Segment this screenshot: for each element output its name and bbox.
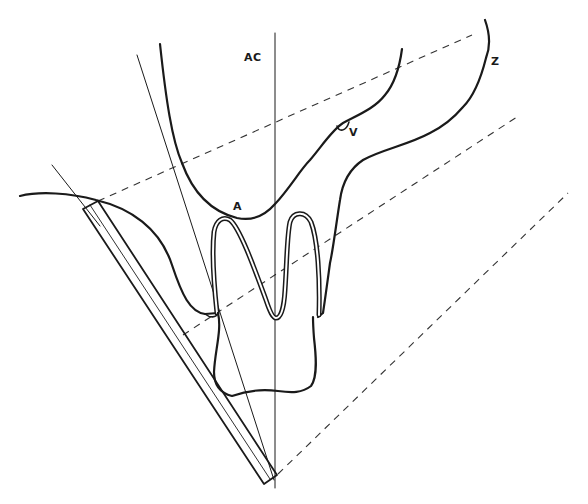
label-v: V [349, 126, 358, 139]
tooth-roots [213, 214, 319, 318]
ray-upper [98, 35, 472, 201]
tooth-crown [214, 313, 316, 396]
zygomatic-contour [318, 20, 489, 317]
label-z: Z [491, 55, 499, 68]
film-plate [83, 201, 277, 484]
label-ac: AC [244, 51, 262, 64]
dental-diagram [0, 0, 588, 504]
sinus-floor-contour [160, 44, 402, 219]
palate-contour [20, 193, 218, 314]
ray-lower [278, 193, 568, 474]
label-a: A [233, 200, 242, 213]
